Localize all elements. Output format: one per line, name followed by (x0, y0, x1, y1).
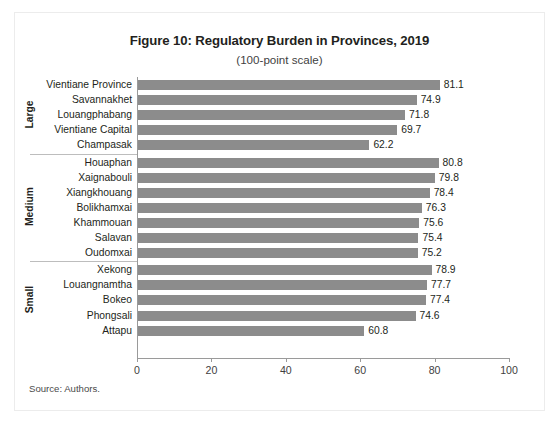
category-label: Louangnamtha (30, 279, 132, 290)
x-tick-label: 20 (191, 364, 231, 376)
chart-row: Champasak62.2 (0, 138, 559, 153)
bar (138, 280, 427, 290)
category-label: Salavan (30, 232, 132, 243)
group-label-small: Small (24, 254, 35, 344)
bar-value-label: 75.6 (423, 217, 443, 228)
bar-value-label: 75.2 (422, 247, 442, 258)
chart-row: Attapu60.8 (0, 324, 559, 339)
x-tick-label: 60 (340, 364, 380, 376)
bar-value-label: 74.9 (421, 94, 441, 105)
category-label: Oudomxai (30, 247, 132, 258)
category-label: Bokeo (30, 294, 132, 305)
x-tick-label: 0 (117, 364, 157, 376)
bar (138, 110, 405, 120)
x-tick (435, 358, 436, 362)
bar-value-label: 77.7 (431, 279, 451, 290)
bar (138, 326, 364, 336)
category-label: Champasak (30, 139, 132, 150)
bar (138, 140, 369, 150)
chart-row: Xekong78.9 (0, 263, 559, 278)
group-separator (30, 154, 137, 155)
category-label: Xaignabouli (30, 172, 132, 183)
category-label: Houaphan (30, 157, 132, 168)
source-note: Source: Authors. (29, 383, 100, 394)
x-tick-label: 100 (489, 364, 529, 376)
x-tick-label: 40 (266, 364, 306, 376)
group-label-large: Large (24, 69, 35, 159)
bar-value-label: 69.7 (401, 124, 421, 135)
bar (138, 80, 440, 90)
chart-row: Khammouan75.6 (0, 216, 559, 231)
chart-row: Louangphabang71.8 (0, 108, 559, 123)
bar (138, 248, 418, 258)
category-label: Vientiane Province (30, 79, 132, 90)
x-tick (137, 358, 138, 362)
chart-row: Houaphan80.8 (0, 156, 559, 171)
bar-value-label: 78.4 (434, 187, 454, 198)
category-label: Bolikhamxai (30, 202, 132, 213)
category-label: Vientiane Capital (30, 124, 132, 135)
x-tick (211, 358, 212, 362)
category-label: Phongsali (30, 310, 132, 321)
x-tick-label: 80 (415, 364, 455, 376)
chart-row: Bokeo77.4 (0, 293, 559, 308)
bar (138, 233, 418, 243)
bar (138, 173, 435, 183)
x-tick (360, 358, 361, 362)
x-tick (509, 358, 510, 362)
bar-value-label: 76.3 (426, 202, 446, 213)
bar (138, 311, 416, 321)
bar-value-label: 79.8 (439, 172, 459, 183)
bar-value-label: 60.8 (368, 325, 388, 336)
bar-value-label: 71.8 (409, 109, 429, 120)
chart-row: Vientiane Province81.1 (0, 78, 559, 93)
bar (138, 125, 397, 135)
x-axis-line (137, 358, 509, 359)
chart-row: Phongsali74.6 (0, 309, 559, 324)
group-label-medium: Medium (24, 162, 35, 252)
category-label: Attapu (30, 325, 132, 336)
category-label: Khammouan (30, 217, 132, 228)
bar (138, 218, 419, 228)
bar (138, 265, 432, 275)
bar-value-label: 75.4 (422, 232, 442, 243)
category-label: Xiangkhouang (30, 187, 132, 198)
bar-value-label: 74.6 (420, 310, 440, 321)
bar (138, 295, 426, 305)
category-label: Xekong (30, 264, 132, 275)
chart-row: Savannakhet74.9 (0, 93, 559, 108)
bar-value-label: 81.1 (444, 79, 464, 90)
category-label: Louangphabang (30, 109, 132, 120)
chart-row: Xiangkhouang78.4 (0, 186, 559, 201)
bar-chart: Vientiane Province81.1Savannakhet74.9Lou… (0, 0, 559, 423)
bar-value-label: 78.9 (436, 264, 456, 275)
chart-row: Bolikhamxai76.3 (0, 201, 559, 216)
bar-value-label: 80.8 (443, 157, 463, 168)
chart-row: Vientiane Capital69.7 (0, 123, 559, 138)
bar (138, 95, 417, 105)
figure-page: Figure 10: Regulatory Burden in Province… (0, 0, 559, 423)
x-tick (286, 358, 287, 362)
chart-row: Salavan75.4 (0, 231, 559, 246)
group-separator (30, 261, 137, 262)
chart-row: Oudomxai75.2 (0, 246, 559, 261)
bar (138, 203, 422, 213)
chart-row: Louangnamtha77.7 (0, 278, 559, 293)
bar (138, 158, 439, 168)
bar-value-label: 77.4 (430, 294, 450, 305)
category-label: Savannakhet (30, 94, 132, 105)
chart-row: Xaignabouli79.8 (0, 171, 559, 186)
bar-value-label: 62.2 (373, 139, 393, 150)
bar (138, 188, 430, 198)
